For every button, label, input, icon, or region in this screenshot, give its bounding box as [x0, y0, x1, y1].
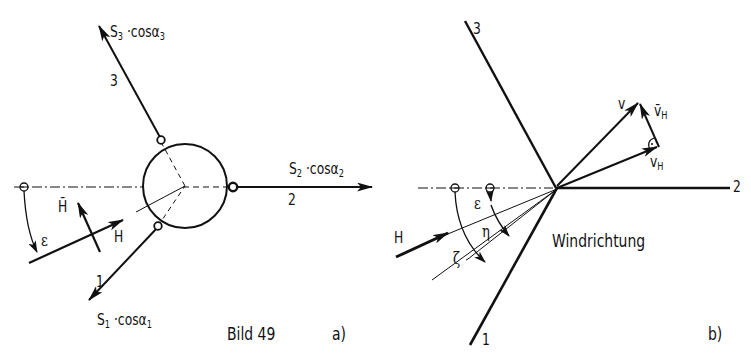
member-3-arrow	[99, 26, 161, 139]
member-label-2-a: 2	[288, 193, 296, 208]
angle-epsilon-arc	[24, 191, 37, 252]
figure-caption: Bild 49	[227, 326, 275, 343]
vector-vH-arrow	[557, 147, 657, 188]
joint-1	[154, 222, 162, 230]
vector-label-vH-bar: v̄H	[654, 104, 667, 121]
vector-v-arrow	[557, 103, 638, 186]
right-angle-dot	[651, 143, 653, 145]
vector-label-vH: vH	[650, 155, 663, 172]
angle-label-epsilon-a: ε	[41, 233, 48, 249]
load-label-H-b: H	[394, 231, 403, 246]
angle-epsilon-arc-b	[490, 192, 491, 201]
force-label-S3: S3 ·cosα3	[110, 25, 165, 42]
member-label-3-b: 3	[473, 22, 481, 37]
member-label-3-a: 3	[110, 74, 118, 89]
load-label-H-bar: H̄	[58, 200, 67, 215]
ray-wind	[432, 189, 557, 280]
joint-3	[157, 136, 165, 144]
vector-label-v: v	[618, 97, 625, 112]
member-label-1-a: 1	[96, 275, 104, 290]
joint-2	[229, 183, 237, 191]
panel-tag-a: a)	[332, 326, 346, 343]
force-label-S1: S1 ·cosα1	[97, 313, 152, 330]
load-label-H: H	[114, 230, 123, 245]
angle-label-epsilon-b: ε	[474, 196, 481, 212]
load-H-bar-arrow	[78, 203, 100, 252]
technical-diagram	[0, 0, 751, 357]
angle-label-eta: η	[482, 224, 490, 240]
load-H-arrow-b	[396, 233, 448, 257]
wind-direction-label: Windrichtung	[552, 233, 645, 250]
force-label-S2: S2 ·cosα2	[289, 162, 344, 179]
angle-label-zeta: ζ	[453, 251, 460, 267]
member-label-1-b: 1	[482, 333, 490, 348]
panel-b	[396, 21, 730, 345]
member-3-line	[465, 21, 556, 188]
ray-zeta-ext	[466, 259, 468, 260]
member-1-line	[470, 188, 557, 345]
panel-tag-b: b)	[708, 326, 722, 343]
member-label-2-b: 2	[733, 180, 741, 195]
